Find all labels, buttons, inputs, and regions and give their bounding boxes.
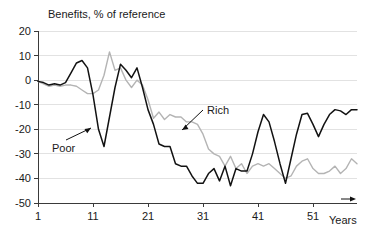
annotation-poor: Poor <box>52 128 91 154</box>
y-tick-label: -40 <box>15 172 31 184</box>
grid-lines <box>38 31 357 178</box>
annotation-label-rich: Rich <box>207 104 229 116</box>
annotation-label-poor: Poor <box>52 142 76 154</box>
data-series <box>38 52 357 186</box>
y-tick-label: 20 <box>19 25 31 37</box>
x-tick-label: 21 <box>142 210 154 222</box>
annotation-rich: Rich <box>182 104 229 130</box>
chart-container: 20100-10-20-30-40-50 11121314151 PoorRic… <box>0 0 379 241</box>
y-tick-label: -10 <box>15 99 31 111</box>
x-axis-title: Years <box>329 214 357 226</box>
line-chart: 20100-10-20-30-40-50 11121314151 PoorRic… <box>0 0 379 241</box>
y-tick-label: 10 <box>19 50 31 62</box>
y-tick-label: -20 <box>15 123 31 135</box>
y-tick-label: 0 <box>25 74 31 86</box>
chart-title: Benefits, % of reference <box>48 8 165 20</box>
right-edge-marker <box>341 197 356 202</box>
series-line-poor <box>38 60 357 185</box>
x-axis-ticks: 11121314151 <box>35 203 319 222</box>
x-tick-label: 41 <box>252 210 264 222</box>
x-tick-label: 31 <box>197 210 209 222</box>
y-tick-label: -30 <box>15 148 31 160</box>
y-tick-label: -50 <box>15 197 31 209</box>
x-tick-label: 51 <box>307 210 319 222</box>
x-tick-label: 11 <box>87 210 98 222</box>
x-tick-label: 1 <box>35 210 41 222</box>
y-axis-ticks: 20100-10-20-30-40-50 <box>15 25 38 209</box>
